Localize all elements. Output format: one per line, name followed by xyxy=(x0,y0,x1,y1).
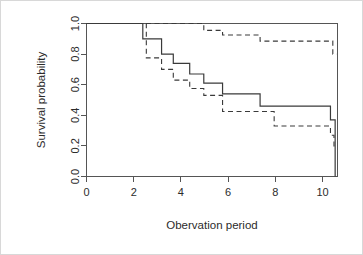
x-tick-label: 6 xyxy=(225,186,231,198)
x-tick-label: 4 xyxy=(178,186,184,198)
x-tick-label: 8 xyxy=(272,186,278,198)
plot-frame xyxy=(87,24,338,177)
x-axis-ticks xyxy=(87,177,323,183)
y-tick-label: 1.0 xyxy=(69,16,81,31)
y-tick-label: 0.8 xyxy=(69,46,81,61)
y-tick-label: 0.4 xyxy=(69,108,81,123)
y-tick-label: 0.0 xyxy=(69,169,81,184)
y-axis-ticks xyxy=(81,24,87,177)
lower-confidence-curve xyxy=(87,24,337,146)
x-tick-label: 10 xyxy=(316,186,328,198)
y-tick-label: 0.6 xyxy=(69,77,81,92)
y-axis-title: Survival probability xyxy=(35,51,47,148)
figure-container: 0.0 0.2 0.4 0.6 0.8 1.0 0 2 4 6 8 10 Sur… xyxy=(0,0,363,255)
kaplan-meier-curve xyxy=(87,24,336,177)
survival-curve-chart: 0.0 0.2 0.4 0.6 0.8 1.0 0 2 4 6 8 10 Sur… xyxy=(1,1,363,255)
x-axis-title: Obervation period xyxy=(166,219,257,231)
x-tick-label: 2 xyxy=(131,186,137,198)
x-axis-tick-labels: 0 2 4 6 8 10 xyxy=(83,186,328,198)
x-tick-label: 0 xyxy=(83,186,89,198)
upper-confidence-curve xyxy=(87,24,337,55)
y-axis-tick-labels: 0.0 0.2 0.4 0.6 0.8 1.0 xyxy=(69,16,81,184)
y-tick-label: 0.2 xyxy=(69,138,81,153)
curve-layer xyxy=(87,24,337,177)
